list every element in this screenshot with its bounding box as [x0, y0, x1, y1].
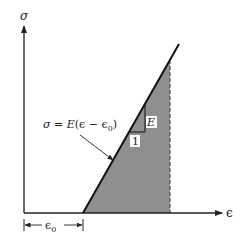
equation-label: σ = E(ϵ − ϵ0)	[43, 118, 117, 133]
slope-run-label: 1	[132, 135, 139, 148]
x-axis-label: ϵ	[226, 206, 233, 220]
slope-rise-label: E	[146, 116, 155, 129]
eq-minus: −	[85, 118, 101, 131]
offset-label: ϵ0	[45, 219, 56, 234]
y-axis-label: σ	[20, 9, 29, 23]
stress-strain-diagram: E 1 σ = E(ϵ − ϵ0) σ ϵ ϵ0	[0, 0, 248, 244]
equation-leader-arrow	[80, 135, 113, 160]
eq-close-paren: )	[113, 118, 117, 131]
eq-equals: =	[51, 118, 67, 131]
offset-label-subscript: 0	[51, 225, 56, 234]
eq-modulus: E	[66, 118, 75, 131]
